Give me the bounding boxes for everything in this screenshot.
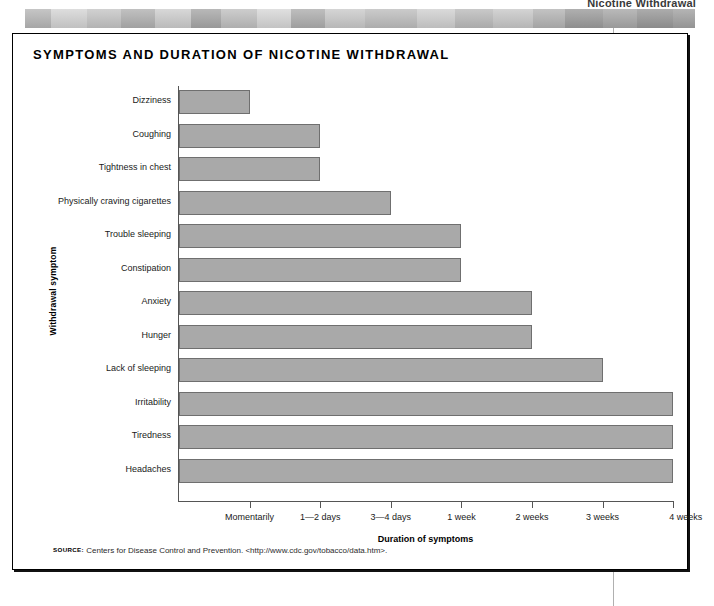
x-tick-mark <box>320 501 321 508</box>
chart-plot-area: Withdrawal symptom Duration of symptoms … <box>13 34 687 569</box>
source-citation-text: Centers for Disease Control and Preventi… <box>86 546 387 555</box>
x-tick-label: 3 weeks <box>568 512 638 522</box>
page-running-head: Nicotine Withdrawal <box>587 0 696 9</box>
x-tick-label: 1—2 days <box>285 512 355 522</box>
x-tick-mark <box>673 501 674 508</box>
x-tick-mark <box>532 501 533 508</box>
x-tick-label: 1 week <box>426 512 496 522</box>
x-tick-mark <box>461 501 462 508</box>
x-tick-mark <box>603 501 604 508</box>
x-tick-label: 4 weeks <box>669 512 714 522</box>
source-kicker-label: SOURCE: <box>53 546 84 553</box>
source-note: SOURCE: Centers for Disease Control and … <box>53 546 387 555</box>
x-tick-mark <box>250 501 251 508</box>
x-tick-mark <box>391 501 392 508</box>
x-axis-ticks: Momentarily1—2 days3—4 days1 week2 weeks… <box>13 34 687 569</box>
figure-container: SYMPTOMS AND DURATION OF NICOTINE WITHDR… <box>12 33 688 570</box>
decorative-photo-band <box>25 9 695 28</box>
x-tick-label: 2 weeks <box>497 512 567 522</box>
x-tick-label: 3—4 days <box>356 512 426 522</box>
x-tick-label: Momentarily <box>215 512 285 522</box>
